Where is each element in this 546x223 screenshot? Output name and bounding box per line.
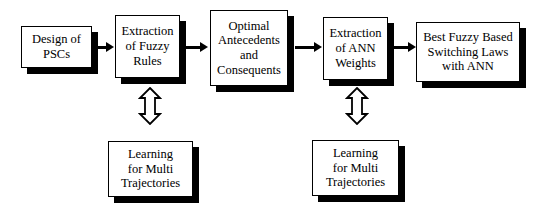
arrow-fuzzy-learning-left [138, 87, 162, 125]
node-optimal-antecedents: Optimal Antecedents and Consequents [210, 10, 288, 86]
node-label-extraction-ann-weights: Extraction of ANN Weights [327, 26, 383, 70]
node-best-fuzzy-switching: Best Fuzzy Based Switching Laws with ANN [416, 22, 520, 82]
node-label-optimal-antecedents: Optimal Antecedents and Consequents [215, 19, 283, 78]
node-extraction-ann-weights: Extraction of ANN Weights [323, 17, 388, 80]
node-label-learning-left: Learning for Multi Trajectories [119, 147, 182, 191]
arrow-head-icon [314, 42, 322, 52]
arrow-head-icon [106, 42, 114, 52]
node-extraction-fuzzy-rules: Extraction of Fuzzy Rules [115, 15, 180, 78]
arrow-ann-learning-right [345, 87, 369, 125]
arrow-shaft [389, 46, 409, 49]
arrow-shaft [295, 46, 315, 49]
node-learning-multi-trajectories-right: Learning for Multi Trajectories [312, 140, 399, 196]
arrow-head-icon [200, 42, 208, 52]
node-learning-multi-trajectories-left: Learning for Multi Trajectories [108, 141, 193, 197]
node-label-design-of-pscs: Design of PSCs [30, 32, 83, 62]
arrow-shaft [93, 46, 107, 49]
flowchart-diagram: Design of PSCs Extraction of Fuzzy Rules… [0, 0, 546, 223]
node-label-extraction-fuzzy-rules: Extraction of Fuzzy Rules [119, 24, 175, 68]
node-design-of-pscs: Design of PSCs [21, 26, 92, 68]
arrow-head-icon [408, 42, 416, 52]
arrow-shaft [181, 46, 201, 49]
node-label-learning-right: Learning for Multi Trajectories [324, 146, 387, 190]
node-label-best-fuzzy-switching: Best Fuzzy Based Switching Laws with ANN [421, 30, 515, 74]
